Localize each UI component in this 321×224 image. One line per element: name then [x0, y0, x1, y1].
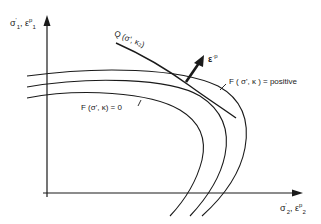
yield-curve-middle	[27, 80, 226, 216]
x-label-sub2: 2	[302, 209, 305, 215]
plastic-strain-label: ε·p	[208, 53, 218, 64]
yield-surface-diagram	[0, 0, 321, 224]
yield-zero-label: F (σ', κ) = 0	[81, 104, 122, 112]
y-label-sub2: 1	[32, 24, 35, 30]
x-axis-label: σ'2, εp2	[280, 202, 306, 215]
yield-curve-positive	[27, 70, 246, 216]
epsilon-sup: ·p	[212, 53, 217, 59]
y-axis-label: σ'1, εp1	[10, 17, 36, 30]
leader-line-zero	[138, 100, 141, 106]
y-label-prime: '	[16, 17, 17, 23]
x-label-prime: '	[286, 202, 287, 208]
x-label-p: p	[299, 202, 302, 208]
x-axis-arrowhead-icon	[292, 190, 303, 197]
yield-positive-label: F ( σ', κ ) = positive	[229, 78, 297, 86]
y-axis-arrowhead-icon	[44, 15, 51, 26]
plastic-potential-curve	[116, 43, 236, 118]
plastic-strain-arrowhead-icon	[194, 55, 204, 67]
y-label-p: p	[29, 17, 32, 23]
